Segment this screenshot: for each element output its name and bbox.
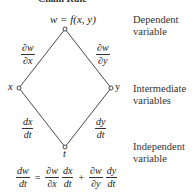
dependent-variable-label: Dependent variable — [133, 14, 178, 38]
node-y-circle — [109, 86, 113, 90]
edge-label-dw-dx: ∂w ∂x — [21, 43, 35, 66]
intermediate-variables-label: Intermediate variables — [133, 83, 186, 107]
formula-plus: + — [76, 172, 86, 183]
node-x-label: x — [8, 81, 13, 92]
edge-label-dy-dt: dy dt — [95, 117, 106, 140]
function-definition: w = f(x, y) — [50, 13, 96, 25]
chain-rule-formula: dw dt = ∂w ∂x dx dt + ∂w ∂y dy dt — [16, 166, 117, 189]
node-y-label: y — [115, 81, 120, 92]
independent-variable-label: Independent variable — [133, 141, 185, 165]
edge-label-dw-dy: ∂w ∂y — [96, 43, 110, 66]
formula-equals: = — [33, 172, 43, 183]
formula-term2-derivative: dy dt — [106, 166, 117, 189]
formula-term2-partial: ∂w ∂y — [89, 166, 103, 189]
formula-term1-partial: ∂w ∂x — [45, 166, 59, 189]
node-t-label: t — [63, 148, 66, 159]
formula-lhs: dw dt — [16, 166, 30, 189]
edge-label-dx-dt: dx dt — [22, 117, 33, 140]
formula-term1-derivative: dx dt — [62, 166, 73, 189]
node-x-circle — [17, 86, 21, 90]
node-w-circle — [63, 27, 67, 31]
